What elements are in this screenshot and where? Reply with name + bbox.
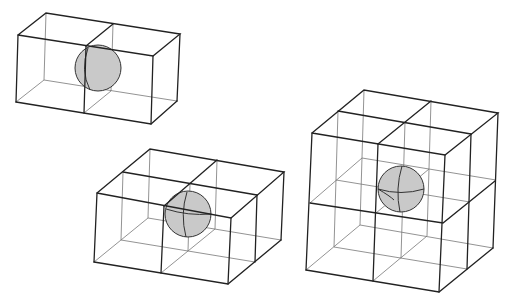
sphere — [75, 45, 121, 91]
sphere — [378, 166, 424, 212]
figure-two-cell — [16, 13, 180, 124]
diagram-canvas — [0, 0, 509, 305]
figure-four-cell — [94, 149, 284, 284]
figure-eight-cell — [306, 90, 498, 292]
